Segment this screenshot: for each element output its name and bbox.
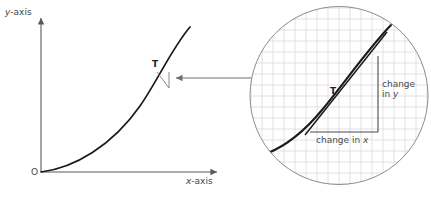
tangent-point-label-left: T (152, 59, 158, 69)
y-axis-label-rest: -axis (10, 7, 31, 17)
x-axis-label-rest: -axis (191, 176, 212, 186)
change-in-x-label: change in x (316, 135, 368, 145)
tangent-point-label-magnified: T (330, 86, 336, 96)
change-in-y-line2-italic: y (393, 89, 398, 99)
y-axis-label: y-axis (5, 7, 32, 17)
figure-canvas: y-axis x-axis O T T change in y change i… (0, 0, 431, 199)
change-in-y-line2-prefix: in (382, 89, 393, 99)
tangent-marker-small (157, 72, 169, 88)
curve-path (41, 27, 190, 172)
origin-label: O (31, 167, 38, 177)
diagram-svg (0, 0, 431, 199)
change-in-x-italic: x (363, 135, 368, 145)
change-in-x-prefix: change in (316, 135, 363, 145)
x-axis-label: x-axis (186, 176, 213, 186)
change-in-y-line1: change (382, 79, 415, 89)
left-graph (41, 18, 217, 172)
change-in-y-label: change in y (382, 79, 415, 100)
